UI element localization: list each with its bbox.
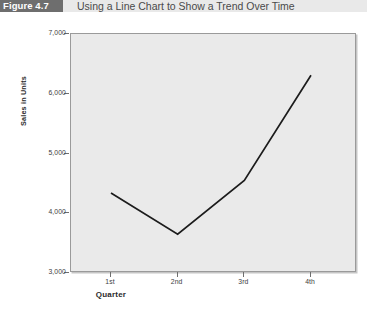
y-tick-label: 3,000 xyxy=(48,268,66,275)
data-line-svg xyxy=(71,34,357,273)
x-tick-mark xyxy=(243,272,244,277)
x-tick-mark xyxy=(310,272,311,277)
y-tick-label: 6,000 xyxy=(48,89,66,96)
x-axis-title-label: Quarter xyxy=(96,290,126,299)
y-tick-label: 5,000 xyxy=(48,149,66,156)
x-tick-label: 4th xyxy=(305,278,315,285)
series-line-sales-in-units xyxy=(111,75,311,234)
x-tick-label: 3rd xyxy=(238,278,248,285)
y-tick-label: 4,000 xyxy=(48,208,66,215)
line-chart: Sales in Units 3,0004,0005,0006,0007,000… xyxy=(0,12,367,309)
x-tick-mark xyxy=(110,272,111,277)
x-axis-title: Quarter xyxy=(0,290,367,299)
figure-number-badge: Figure 4.7 xyxy=(0,0,63,12)
x-tick-mark xyxy=(177,272,178,277)
x-tick-label: 1st xyxy=(105,278,114,285)
figure-header-band: Figure 4.7 Using a Line Chart to Show a … xyxy=(0,0,367,12)
y-tick-label: 7,000 xyxy=(48,29,66,36)
x-tick-label: 2nd xyxy=(171,278,183,285)
figure-caption-title: Using a Line Chart to Show a Trend Over … xyxy=(77,0,367,12)
y-axis: 3,0004,0005,0006,0007,000 xyxy=(0,12,66,309)
plot-area xyxy=(70,33,356,272)
